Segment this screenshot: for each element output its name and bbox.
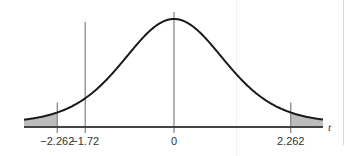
tick-label-center: 0 xyxy=(171,135,177,147)
tick-label-observed: −1.72 xyxy=(71,135,99,147)
x-axis-label: t xyxy=(328,121,332,133)
tick-label-pos-critical: 2.262 xyxy=(277,135,305,147)
tick-label-neg-critical: −2.262 xyxy=(40,135,74,147)
t-distribution-chart: t −2.262−1.7202.262 xyxy=(0,0,346,156)
